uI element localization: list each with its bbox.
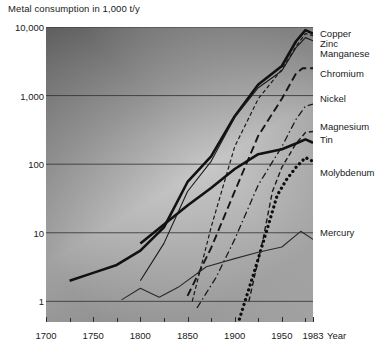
- x-minor-tick-1875: [211, 318, 212, 322]
- plot-background-overlay: [46, 27, 313, 322]
- y-tick-label-1000: 1,000: [0, 90, 44, 101]
- legend-label-nickel: Nickel: [320, 93, 346, 104]
- legend-label-chromium: Chromium: [320, 68, 364, 79]
- x-tick-label-1800: 1800: [130, 330, 151, 341]
- legend-label-manganese: Manganese: [320, 48, 370, 59]
- y-tick-label-10: 10: [0, 227, 44, 238]
- x-tick-label-1750: 1750: [83, 330, 104, 341]
- x-tick-label-1850: 1850: [177, 330, 198, 341]
- y-tick-label-1: 1: [0, 296, 44, 307]
- legend-label-tin: Tin: [320, 134, 333, 145]
- x-tick-label-1983: 1983: [302, 330, 323, 341]
- x-minor-tick-1925: [258, 318, 259, 322]
- x-minor-tick-1775: [117, 318, 118, 322]
- metal-consumption-chart: Metal consumption in 1,000 t/y: [0, 0, 390, 360]
- legend-label-molybdenum: Molybdenum: [320, 167, 374, 178]
- x-tick-mark-1950: [282, 317, 283, 322]
- legend-label-mercury: Mercury: [320, 227, 354, 238]
- x-minor-tick-1825: [164, 318, 165, 322]
- x-tick-mark-1800: [140, 317, 141, 322]
- x-tick-mark-1700: [46, 317, 47, 322]
- x-tick-label-1900: 1900: [224, 330, 245, 341]
- x-tick-mark-1750: [93, 317, 94, 322]
- x-minor-tick-1975: [305, 318, 306, 322]
- x-tick-mark-1850: [188, 317, 189, 322]
- y-tick-label-10000: 10,000: [0, 22, 44, 33]
- x-axis-label: Year: [327, 330, 346, 341]
- x-minor-tick-1725: [70, 318, 71, 322]
- x-tick-label-1700: 1700: [35, 330, 56, 341]
- legend-label-magnesium: Magnesium: [320, 121, 369, 132]
- chart-title: Metal consumption in 1,000 t/y: [8, 3, 140, 14]
- plot-canvas: [46, 27, 313, 322]
- x-tick-mark-1900: [235, 317, 236, 322]
- plot-area: [46, 27, 313, 322]
- x-tick-mark-1983: [313, 317, 314, 322]
- y-tick-label-100: 100: [0, 159, 44, 170]
- x-tick-label-1950: 1950: [271, 330, 292, 341]
